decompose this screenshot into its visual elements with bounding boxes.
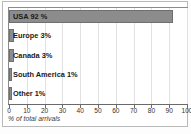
x-tick-label: 30 <box>59 107 66 114</box>
bar-label: USA 92 % <box>13 10 47 23</box>
bar-row: Canada 3% <box>9 48 187 67</box>
bar <box>9 87 12 100</box>
x-tick-label: 90 <box>166 107 173 114</box>
x-tick-label: 100 <box>181 107 191 114</box>
bar-row: USA 92 % <box>9 9 187 28</box>
x-tick-label: 50 <box>94 107 101 114</box>
bar-row: South America 1% <box>9 67 187 86</box>
figure-frame: USA 92 %Europe 3%Canada 3%South America … <box>2 1 188 127</box>
bar-row: Other 1% <box>9 86 187 105</box>
gridline <box>187 8 188 104</box>
x-tick-label: 10 <box>23 107 30 114</box>
bar-series: USA 92 %Europe 3%Canada 3%South America … <box>9 8 187 104</box>
bar-label: Other 1% <box>13 87 45 100</box>
x-tick-label: 0 <box>7 107 11 114</box>
plot-area: USA 92 %Europe 3%Canada 3%South America … <box>8 7 188 105</box>
x-tick-label: 40 <box>77 107 84 114</box>
x-tick-label: 60 <box>112 107 119 114</box>
bar-label: South America 1% <box>13 68 78 81</box>
bar <box>9 68 12 81</box>
x-axis-title: % of total arrivals <box>8 115 60 122</box>
bar-label: Canada 3% <box>13 49 52 62</box>
bar-label: Europe 3% <box>13 29 51 42</box>
bar-row: Europe 3% <box>9 28 187 47</box>
chart-figure: USA 92 %Europe 3%Canada 3%South America … <box>0 0 191 134</box>
x-tick-label: 80 <box>148 107 155 114</box>
x-tick-label: 20 <box>41 107 48 114</box>
x-tick-label: 70 <box>130 107 137 114</box>
